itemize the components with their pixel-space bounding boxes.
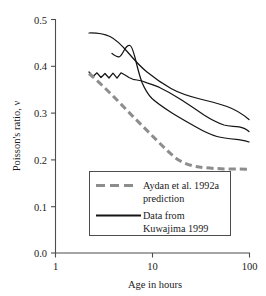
- y-tick-label-4: 0.4: [34, 61, 48, 72]
- y-tick-label-5: 0.5: [34, 15, 47, 26]
- y-tick-label-1: 0.1: [34, 202, 47, 213]
- y-tick-label-2: 0.2: [34, 155, 47, 166]
- chart-legend: Aydan et al. 1992a prediction Data from …: [90, 172, 231, 236]
- y-tick-label-0: 0.0: [34, 248, 47, 259]
- legend-label-aydan-line1: Aydan et al. 1992a: [143, 180, 219, 191]
- poissons-ratio-line-chart: 0.5 0.4 0.3 0.2 0.1 0.0 1 10 100 Age in …: [0, 0, 266, 296]
- legend-label-kuwajima-line1: Data from: [143, 210, 185, 221]
- legend-label-aydan-line2: prediction: [143, 193, 184, 204]
- x-axis-tick-labels: 1 10 100: [53, 261, 258, 272]
- x-tick-label-10: 10: [147, 261, 158, 272]
- x-tick-label-1: 1: [53, 261, 58, 272]
- y-tick-label-3: 0.3: [34, 108, 47, 119]
- y-axis-ticks: [51, 20, 56, 254]
- series-kuwajima-steep: [112, 45, 249, 142]
- x-tick-label-100: 100: [242, 261, 258, 272]
- series-kuwajima-wavy: [89, 72, 249, 132]
- y-axis-tick-labels: 0.5 0.4 0.3 0.2 0.1 0.0: [34, 15, 48, 260]
- chart-figure: 0.5 0.4 0.3 0.2 0.1 0.0 1 10 100 Age in …: [0, 0, 266, 296]
- x-axis-ticks: [56, 253, 250, 258]
- series-kuwajima-upper: [89, 33, 249, 120]
- series-group: [89, 33, 250, 169]
- legend-label-kuwajima-line2: Kuwajima 1999: [143, 223, 208, 234]
- x-axis-title: Age in hours: [128, 279, 182, 290]
- y-axis-title: Poisson's ratio, ν: [11, 100, 22, 171]
